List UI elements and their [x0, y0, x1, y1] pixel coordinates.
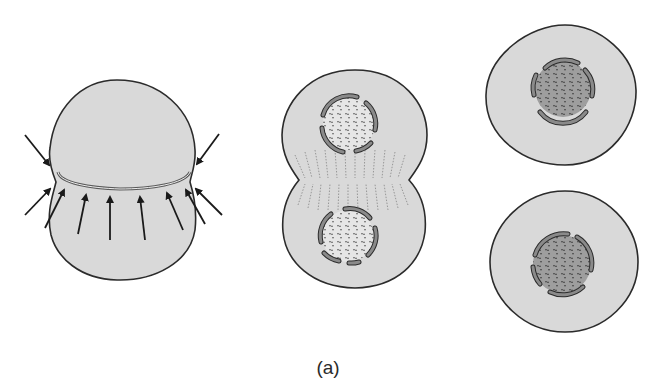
- cell-membrane: [49, 80, 195, 280]
- stage-3-daughter-top: [486, 25, 636, 165]
- figure-caption: (a): [0, 357, 656, 379]
- nucleus-bottom: [320, 209, 376, 263]
- stage-2-cell: [282, 70, 427, 288]
- cytokinesis-diagram: [0, 0, 656, 389]
- stage-1-cell: [25, 80, 222, 280]
- nucleus: [533, 234, 592, 295]
- stage-3-daughter-bottom: [490, 191, 638, 332]
- nucleus-top: [322, 96, 376, 152]
